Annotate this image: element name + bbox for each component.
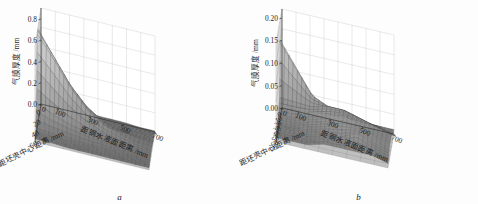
- surface-plot-a: 0.00.20.40.60.802040600100300500700气膜厚度 …: [0, 0, 239, 204]
- panel-caption-a: a: [0, 192, 239, 202]
- ztick-label: 0.15: [265, 36, 278, 45]
- z-axis-label: 气膜厚度 /mm: [250, 39, 260, 87]
- ztick-label: 0.4: [28, 58, 38, 67]
- ztick-label: 0.10: [265, 59, 278, 68]
- ztick-label: 0.8: [28, 15, 38, 24]
- surface-plot-b: 0.000.050.100.150.2001020304050607001003…: [239, 0, 478, 204]
- chart-panel-b: 0.000.050.100.150.2001020304050607001003…: [239, 0, 478, 204]
- panel-caption-b: b: [239, 192, 478, 202]
- figure-container: 0.00.20.40.60.802040600100300500700气膜厚度 …: [0, 0, 478, 204]
- z-axis-label: 气膜厚度 /mm: [11, 37, 21, 85]
- ztick-label: 0.20: [265, 14, 278, 23]
- ztick-label: 0.6: [28, 36, 38, 45]
- ztick-label: 0.2: [28, 79, 38, 88]
- chart-panel-a: 0.00.20.40.60.802040600100300500700气膜厚度 …: [0, 0, 239, 204]
- ztick-label: 0.05: [265, 82, 278, 91]
